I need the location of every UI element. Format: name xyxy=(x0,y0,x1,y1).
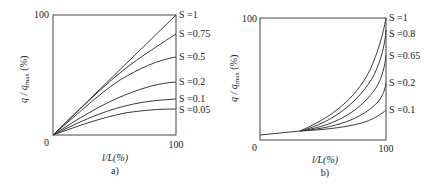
panel-a-y-top-tick: 100 xyxy=(34,9,49,20)
panel-b-legend: S =1 S =0.8 S =0.65 S =0.2 S =0.1 xyxy=(389,12,420,115)
legend-a-s01: S =0.1 xyxy=(179,93,205,104)
panel-a-x-label: l/L(%) xyxy=(102,152,129,164)
panel-a-x-right-tick: 100 xyxy=(169,139,184,150)
curve-b-s08 xyxy=(300,30,386,131)
curve-b-baseline xyxy=(260,131,300,135)
panel-a-legend: S =1 S =0.75 S =0.5 S =0.2 S =0.1 S =0.0… xyxy=(179,9,210,115)
svg-text:q / qmax (%): q / qmax (%) xyxy=(18,56,31,103)
legend-a-s1: S =1 xyxy=(179,9,198,20)
panel-a-y-label: q / qmax (%) xyxy=(18,56,31,103)
curve-b-s065 xyxy=(300,55,386,131)
panel-a-y-label-unit: (%) xyxy=(18,56,30,74)
panel-b-caption: b) xyxy=(321,167,329,179)
panel-b: 100 0 100 l/L(%) b) q / qmax (%) S =1 S … xyxy=(228,12,420,179)
legend-b-s065: S =0.65 xyxy=(389,50,420,61)
svg-text:q / qmax (%): q / qmax (%) xyxy=(228,55,241,102)
legend-a-s075: S =0.75 xyxy=(179,28,210,39)
legend-b-s08: S =0.8 xyxy=(389,28,415,39)
figure-canvas: 100 0 100 l/L(%) a) q / qmax (%) S =1 S … xyxy=(0,0,433,188)
panel-b-origin-tick: 0 xyxy=(252,142,257,153)
panel-a-caption: a) xyxy=(111,165,119,177)
panel-b-x-right-tick: 100 xyxy=(379,143,394,154)
curve-b-s1 xyxy=(300,18,386,131)
panel-b-x-label: l/L(%) xyxy=(312,154,339,166)
panel-b-y-label-unit: (%) xyxy=(228,55,240,73)
curve-a-s005 xyxy=(53,109,176,135)
panel-a-y-label-main: q / q xyxy=(18,85,29,103)
panel-b-y-label: q / qmax (%) xyxy=(228,55,241,102)
panel-a: 100 0 100 l/L(%) a) q / qmax (%) S =1 S … xyxy=(18,9,210,177)
legend-b-s02: S =0.2 xyxy=(389,77,415,88)
curve-b-s02 xyxy=(300,83,386,131)
legend-b-s01: S =0.1 xyxy=(389,104,415,115)
panel-a-curves xyxy=(53,15,176,135)
panel-b-y-label-main: q / q xyxy=(228,84,239,102)
curve-b-s01 xyxy=(300,110,386,131)
legend-a-s05: S =0.5 xyxy=(179,51,205,62)
panel-b-curves xyxy=(260,18,386,135)
legend-a-s005: S =0.05 xyxy=(179,104,210,115)
panel-b-y-top-tick: 100 xyxy=(242,13,257,24)
legend-a-s02: S =0.2 xyxy=(179,76,205,87)
legend-b-s1: S =1 xyxy=(389,12,408,23)
panel-b-y-label-sub: max xyxy=(233,72,241,85)
panel-a-y-label-sub: max xyxy=(23,73,31,86)
panel-a-origin-tick: 0 xyxy=(44,137,49,148)
